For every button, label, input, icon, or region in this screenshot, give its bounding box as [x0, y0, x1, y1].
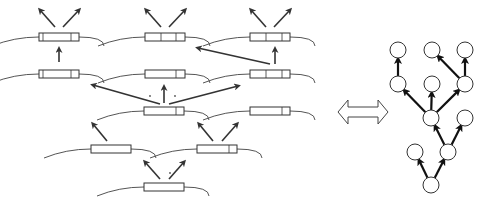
segment-box — [250, 107, 290, 115]
segment-box — [145, 70, 185, 78]
tree-graph — [390, 42, 473, 193]
segment-box — [250, 33, 290, 41]
chromosome-arc — [237, 149, 262, 158]
chromosome-segment — [98, 70, 210, 83]
diagram-canvas — [0, 0, 482, 203]
chromosome-segment — [203, 107, 315, 120]
chromosome-arc — [0, 74, 39, 83]
replication-diagram — [0, 10, 315, 196]
chromosome-segment — [97, 183, 209, 196]
replication-arrow — [222, 124, 237, 141]
chromosome-segment — [0, 33, 104, 46]
replication-arrow — [93, 124, 107, 141]
replication-arrow — [251, 10, 266, 27]
replication-arrow — [198, 48, 270, 64]
replication-arrow — [145, 162, 160, 179]
replication-arrow — [40, 10, 55, 27]
chromosome-arc — [97, 187, 144, 196]
chromosome-segment — [97, 107, 209, 120]
diagram-svg — [0, 0, 482, 203]
tree-edge — [419, 160, 428, 178]
segment-box — [197, 145, 237, 153]
tree-node — [424, 76, 440, 92]
tree-edge — [452, 126, 461, 145]
replication-arrow — [93, 85, 160, 104]
marker-dot — [174, 95, 176, 97]
tree-edge — [435, 160, 444, 178]
chromosome-arc — [203, 111, 250, 120]
tree-edge — [438, 56, 459, 78]
tree-node — [423, 110, 439, 126]
tree-node — [440, 144, 456, 160]
segment-box — [39, 33, 79, 41]
tree-node — [457, 110, 473, 126]
segment-box — [91, 145, 131, 153]
tree-edge — [404, 90, 425, 112]
chromosome-arc — [150, 149, 197, 158]
chromosome-segment — [203, 70, 315, 83]
chromosome-arc — [44, 149, 91, 158]
chromosome-segment — [0, 70, 104, 83]
tree-node — [390, 76, 406, 92]
double-arrow-icon — [338, 100, 388, 124]
replication-arrow — [169, 162, 184, 179]
tree-node — [407, 144, 423, 160]
tree-edge — [437, 90, 459, 112]
chromosome-arc — [98, 37, 145, 46]
replication-arrow — [169, 10, 185, 27]
tree-node — [390, 42, 406, 58]
segment-box — [144, 107, 184, 115]
tree-node — [424, 42, 440, 58]
chromosome-arc — [97, 111, 144, 120]
tree-edge — [431, 93, 432, 110]
tree-edge — [435, 126, 444, 145]
segment-box — [144, 183, 184, 191]
chromosome-arc — [290, 111, 315, 120]
tree-node — [423, 177, 439, 193]
chromosome-segment — [98, 33, 210, 46]
replication-arrow — [63, 10, 79, 27]
chromosome-arc — [184, 187, 209, 196]
chromosome-segment — [44, 145, 156, 158]
chromosome-arc — [290, 37, 315, 46]
marker-dot — [149, 95, 151, 97]
chromosome-segment — [150, 145, 262, 158]
tree-node — [457, 76, 473, 92]
replication-arrow — [146, 10, 161, 27]
tree-node — [457, 42, 473, 58]
chromosome-arc — [290, 74, 315, 83]
replication-arrow — [199, 124, 213, 141]
chromosome-arc — [98, 74, 145, 83]
chromosome-segment — [203, 33, 315, 46]
replication-arrow — [169, 86, 238, 104]
segment-box — [250, 70, 290, 78]
marker-dot — [169, 172, 171, 174]
segment-box — [145, 33, 185, 41]
segment-box — [39, 70, 79, 78]
replication-arrow — [274, 10, 290, 27]
chromosome-arc — [0, 37, 39, 46]
